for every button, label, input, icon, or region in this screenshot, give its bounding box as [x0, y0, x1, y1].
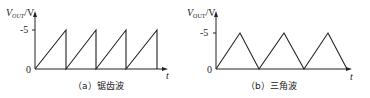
tick-label-minus5: -5	[20, 24, 28, 35]
tick-label-zero: 0	[26, 64, 31, 75]
y-axis-label: VOUT/V	[6, 7, 35, 19]
tick-label-minus5: -5	[200, 27, 208, 38]
caption-a: （a）锯齿波	[73, 80, 124, 91]
y-axis-label: VOUT/V	[187, 7, 216, 19]
x-axis-label: t	[166, 70, 169, 81]
x-axis-label: t	[350, 71, 353, 82]
tick-label-zero: 0	[207, 64, 212, 75]
triangle-chart: VOUT/V -5 0 t （b）三角波	[187, 7, 353, 91]
caption-b: （b）三角波	[246, 80, 297, 91]
sawtooth-chart: VOUT/V -5 0 t （a）锯齿波	[6, 7, 169, 91]
sawtooth-wave	[35, 30, 157, 69]
triangle-wave	[216, 33, 347, 69]
waveform-figure: VOUT/V -5 0 t （a）锯齿波 VOUT/V -5 0 t （b）三角…	[0, 0, 370, 98]
